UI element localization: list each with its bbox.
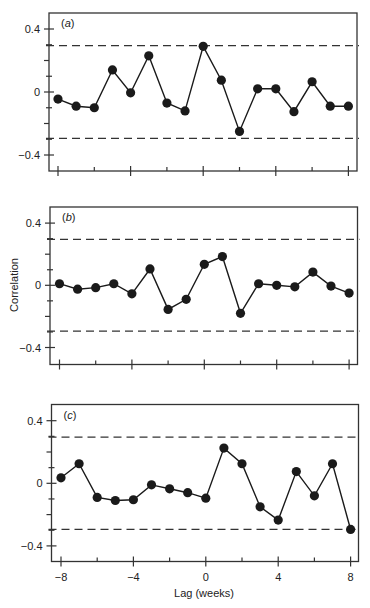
y-axis-label: Correlation [8,258,20,312]
data-point-marker [73,285,82,294]
correlation-figure: 0.40−0.4(a) 0.40−0.4(b) 0.40−0.4−8−4048(… [0,0,370,608]
data-point-marker [72,102,81,111]
series-line [61,448,351,529]
data-point-marker [75,459,84,468]
data-point-marker [328,459,337,468]
data-point-marker [182,295,191,304]
data-point-marker [90,103,99,112]
data-point-marker [147,480,156,489]
data-point-marker [235,127,244,136]
panel-b: 0.40−0.4(b) [19,207,359,370]
x-tick-label: 0 [203,571,209,583]
y-tick-label: 0 [35,279,41,291]
data-point-marker [271,84,280,93]
data-point-marker [308,77,317,86]
data-point-marker [345,288,354,297]
data-point-marker [183,488,192,497]
data-point-marker [292,467,301,476]
panel-label: (a) [61,17,74,29]
panel-label: (b) [62,211,75,223]
data-point-marker [111,496,120,505]
data-point-marker [344,102,353,111]
data-point-marker [237,459,246,468]
plot-area: 0.40−0.4(a) 0.40−0.4(b) 0.40−0.4−8−4048(… [0,0,370,608]
data-point-marker [290,282,299,291]
data-point-marker [274,515,283,524]
series-line [58,46,348,131]
panel-a: 0.40−0.4(a) [18,13,359,176]
data-point-marker [126,88,135,97]
data-point-marker [326,281,335,290]
data-point-marker [218,252,227,261]
panel-label: (c) [64,409,77,421]
data-point-marker [109,279,118,288]
data-point-marker [236,309,245,318]
data-point-marker [165,484,174,493]
data-point-marker [91,283,100,292]
data-point-marker [108,65,117,74]
x-tick-label: 8 [348,571,354,583]
y-tick-label: 0.4 [27,415,42,427]
data-point-marker [219,443,228,452]
plot-frame [49,13,357,171]
data-point-marker [201,494,210,503]
data-point-marker [164,305,173,314]
x-tick-label: −8 [55,571,68,583]
x-tick-label: −4 [127,571,140,583]
data-point-marker [253,84,262,93]
data-point-marker [199,42,208,51]
data-point-marker [129,495,138,504]
y-tick-label: 0 [36,477,42,489]
data-point-marker [272,281,281,290]
x-axis-label: Lag (weeks) [174,587,234,599]
y-tick-label: 0 [34,86,40,98]
y-tick-label: −0.4 [21,540,43,552]
data-point-marker [145,264,154,273]
data-point-marker [56,473,65,482]
data-point-marker [256,502,265,511]
data-point-marker [308,267,317,276]
y-tick-label: 0.4 [26,217,41,229]
data-point-marker [162,98,171,107]
y-tick-label: −0.4 [19,342,41,354]
panel-c: 0.40−0.4−8−4048(c) [21,405,361,583]
data-point-marker [346,525,355,534]
data-point-marker [310,491,319,500]
data-point-marker [217,76,226,85]
y-tick-label: 0.4 [25,23,40,35]
x-tick-label: 4 [275,571,281,583]
data-point-marker [55,279,64,288]
data-point-marker [180,106,189,115]
plot-frame [52,405,359,562]
data-point-marker [289,107,298,116]
y-tick-label: −0.4 [18,149,40,161]
data-point-marker [326,102,335,111]
data-point-marker [93,493,102,502]
data-point-marker [144,51,153,60]
data-point-marker [127,289,136,298]
data-point-marker [254,279,263,288]
data-point-marker [53,94,62,103]
data-point-marker [200,260,209,269]
